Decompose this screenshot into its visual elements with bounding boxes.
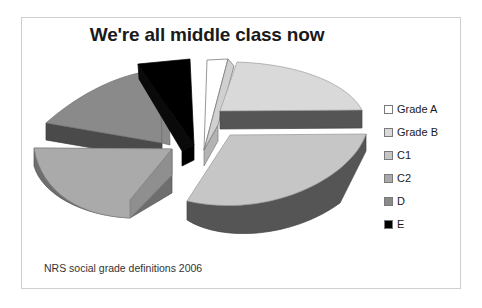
legend-item-c1[interactable]: C1 [384, 144, 462, 166]
chart-caption: NRS social grade definitions 2006 [44, 262, 202, 274]
legend-label-grade-a: Grade A [397, 103, 437, 115]
legend-swatch-grade-a [384, 105, 393, 114]
pie-slice-grade-b-side [220, 110, 362, 129]
legend-item-grade-a[interactable]: Grade A [384, 98, 462, 120]
legend-swatch-grade-b [384, 128, 393, 137]
legend-swatch-c1 [384, 151, 393, 160]
chart-card: We're all middle class now [21, 17, 461, 289]
chart-legend: Grade A Grade B C1 C2 D E [384, 98, 462, 236]
legend-label-c1: C1 [397, 149, 411, 161]
pie-slice-grade-b-top [220, 62, 362, 111]
pie-chart [22, 48, 390, 253]
pie-chart-svg [22, 48, 390, 253]
legend-label-e: E [397, 218, 404, 230]
legend-item-grade-b[interactable]: Grade B [384, 121, 462, 143]
pie-slice-c2[interactable] [34, 148, 172, 218]
page-title: We're all middle class now [22, 24, 392, 46]
legend-item-c2[interactable]: C2 [384, 167, 462, 189]
legend-item-e[interactable]: E [384, 213, 462, 235]
legend-label-grade-b: Grade B [397, 126, 438, 138]
legend-label-c2: C2 [397, 172, 411, 184]
legend-swatch-d [384, 197, 393, 206]
legend-swatch-e [384, 220, 393, 229]
legend-label-d: D [397, 195, 405, 207]
legend-swatch-c2 [384, 174, 393, 183]
legend-item-d[interactable]: D [384, 190, 462, 212]
pie-slice-grade-b[interactable] [220, 62, 362, 129]
